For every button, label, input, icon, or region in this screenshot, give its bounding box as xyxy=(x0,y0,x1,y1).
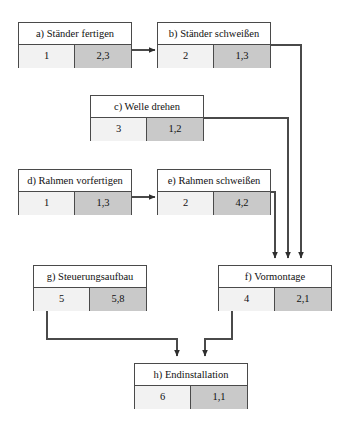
node-b-title: b) Ständer schweißen xyxy=(158,23,270,45)
node-h-duration: 6 xyxy=(135,386,191,409)
node-a-cost: 2,3 xyxy=(75,45,131,68)
node-e[interactable]: e) Rahmen schweißen 2 4,2 xyxy=(157,169,271,215)
node-c-cells: 3 1,2 xyxy=(91,118,203,141)
node-h-cost: 1,1 xyxy=(191,386,247,409)
node-f[interactable]: f) Vormontage 4 2,1 xyxy=(218,265,332,311)
node-d-duration: 1 xyxy=(19,192,75,215)
edge-g-to-h xyxy=(47,311,177,356)
node-e-duration: 2 xyxy=(158,192,214,215)
node-h-cells: 6 1,1 xyxy=(135,386,247,409)
node-g-title: g) Steuerungsaufbau xyxy=(34,266,146,288)
node-f-title: f) Vormontage xyxy=(219,266,331,288)
node-a-cells: 1 2,3 xyxy=(19,45,131,68)
node-a-duration: 1 xyxy=(19,45,75,68)
node-c-title: c) Welle drehen xyxy=(91,96,203,118)
node-d[interactable]: d) Rahmen vorfertigen 1 1,3 xyxy=(18,169,132,215)
node-h[interactable]: h) Endinstallation 6 1,1 xyxy=(134,363,248,409)
node-e-cost: 4,2 xyxy=(214,192,270,215)
node-g[interactable]: g) Steuerungsaufbau 5 5,8 xyxy=(33,265,147,311)
edge-f-to-h xyxy=(205,311,232,356)
node-b-cost: 1,3 xyxy=(214,45,270,68)
node-b-cells: 2 1,3 xyxy=(158,45,270,68)
node-f-duration: 4 xyxy=(219,288,275,311)
node-g-cells: 5 5,8 xyxy=(34,288,146,311)
node-b[interactable]: b) Ständer schweißen 2 1,3 xyxy=(157,22,271,68)
node-e-cells: 2 4,2 xyxy=(158,192,270,215)
node-d-cost: 1,3 xyxy=(75,192,131,215)
node-d-cells: 1 1,3 xyxy=(19,192,131,215)
process-network-diagram: a) Ständer fertigen 1 2,3 b) Ständer sch… xyxy=(0,0,362,440)
node-a-title: a) Ständer fertigen xyxy=(19,23,131,45)
node-h-title: h) Endinstallation xyxy=(135,364,247,386)
node-e-title: e) Rahmen schweißen xyxy=(158,170,270,192)
node-b-duration: 2 xyxy=(158,45,214,68)
node-g-cost: 5,8 xyxy=(90,288,146,311)
node-c-cost: 1,2 xyxy=(147,118,203,141)
edge-e-to-f xyxy=(271,192,275,258)
node-d-title: d) Rahmen vorfertigen xyxy=(19,170,131,192)
node-c[interactable]: c) Welle drehen 3 1,2 xyxy=(90,95,204,141)
node-c-duration: 3 xyxy=(91,118,147,141)
node-f-cells: 4 2,1 xyxy=(219,288,331,311)
node-g-duration: 5 xyxy=(34,288,90,311)
edge-b-to-f xyxy=(271,45,301,258)
node-a[interactable]: a) Ständer fertigen 1 2,3 xyxy=(18,22,132,68)
node-f-cost: 2,1 xyxy=(275,288,331,311)
